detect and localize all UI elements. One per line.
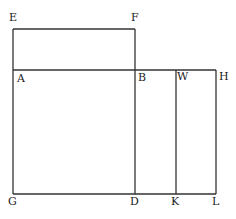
label-e: E xyxy=(9,11,17,24)
label-a: A xyxy=(16,72,26,85)
figure-lines xyxy=(13,29,216,194)
geometric-diagram: E F A B W H G D K L xyxy=(0,0,236,219)
label-g: G xyxy=(8,195,17,208)
label-d: D xyxy=(130,195,139,208)
label-w: W xyxy=(177,70,189,83)
label-h: H xyxy=(219,70,229,83)
point-labels: E F A B W H G D K L xyxy=(8,11,229,208)
label-k: K xyxy=(171,195,180,208)
label-b: B xyxy=(138,71,146,84)
label-l: L xyxy=(212,195,220,208)
label-f: F xyxy=(131,11,139,24)
